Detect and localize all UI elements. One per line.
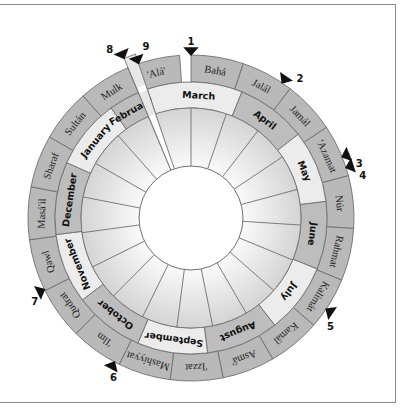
- marker-number: 4: [359, 170, 366, 181]
- calendar-wheel: BaháJalálJamál'AzamatNúrRahmatKalimátKam…: [0, 0, 408, 415]
- marker-number: 8: [106, 44, 113, 55]
- marker-number: 9: [142, 41, 149, 52]
- bahai-month-label: 'Izzat: [185, 362, 208, 374]
- triangle-pointer-icon: [280, 72, 293, 84]
- marker-1: 1: [183, 36, 199, 57]
- center-hole: [139, 166, 243, 270]
- marker-number: 2: [296, 73, 303, 84]
- marker-5: 5: [325, 307, 337, 332]
- bahai-month-segment: 'Izzat: [170, 351, 223, 381]
- bahai-month-segment: Masá'il: [28, 187, 58, 240]
- marker-7: 7: [31, 286, 45, 307]
- triangle-pointer-icon: [325, 307, 337, 320]
- marker-6: 6: [104, 361, 118, 383]
- bahai-month-label: Núr: [333, 195, 346, 213]
- marker-8: 8: [106, 44, 128, 59]
- marker-number: 1: [188, 36, 195, 47]
- marker-number: 7: [31, 296, 38, 307]
- bahai-month-label: Masá'il: [36, 198, 48, 229]
- marker-number: 3: [356, 158, 363, 169]
- gregorian-month-label: March: [182, 89, 216, 102]
- marker-2: 2: [280, 72, 303, 84]
- marker-number: 6: [110, 372, 117, 383]
- marker-number: 5: [327, 321, 334, 332]
